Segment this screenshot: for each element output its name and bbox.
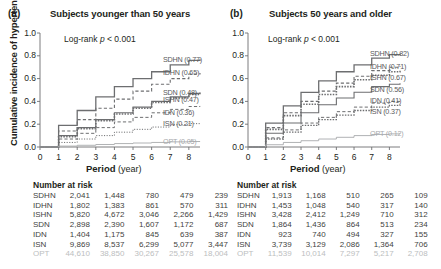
table-row: SDN2,8982,3901,6071,172687 [33,220,228,230]
risk-cell: 1,175 [90,230,125,240]
table-row: ISN9,8698,5376,2995,0773,447 [33,240,228,250]
risk-cell: 1,249 [326,210,360,220]
risk-cell: 845 [124,230,159,240]
y-tick-label: 1.0 [218,28,244,38]
risk-row-label: SDHN [33,191,60,201]
legend-item-sdhn: SDHN (0.82) [370,49,409,58]
table-row: ISHN5,8204,6723,0462,2661,429 [33,210,228,220]
table-row: SDHN1,9131,168510265109 [237,191,428,201]
legend-item-opt: OPT (0.12) [370,129,403,138]
risk-cell: 9,869 [60,240,90,250]
risk-cell: 5,077 [159,240,194,250]
logrank-label: Log-rank [268,34,304,44]
logrank-annotation-a: Log-rank p < 0.001 [64,34,136,44]
risk-cell: 687 [193,220,228,230]
number-at-risk-body: SDHN1,9131,168510265109IDHN1,4531,048540… [237,191,428,259]
x-tick-label: 6 [345,152,363,162]
risk-cell: 327 [360,230,394,240]
x-tick-label: 4 [105,152,123,162]
figure-root: (a) Subjects younger than 50 years Cumul… [0,0,441,269]
number-at-risk-table-b: SDHN1,9131,168510265109IDHN1,4531,048540… [237,191,428,259]
y-tick-label: 0.6 [10,73,36,83]
risk-cell: 1,168 [292,191,326,201]
x-tick-label: 8 [380,152,398,162]
x-tick-label: 1 [257,152,275,162]
risk-cell: 6,299 [124,240,159,250]
x-tick-label: 5 [124,152,142,162]
legend-item-sdhn: SDHN (0.77) [163,55,202,64]
logrank-p-value: < 0.001 [105,34,136,44]
risk-cell: 1,913 [264,191,292,201]
x-axis-title: Period (year) [290,163,346,174]
y-tick-label: 0.0 [218,142,244,152]
risk-cell: 570 [159,201,194,211]
risk-cell: 2,898 [60,220,90,230]
panel-b: (b) Subjects 50 years and older Log-rank… [228,0,441,269]
y-tick-label: 0.6 [218,73,244,83]
legend-item-ishn: ISHN (0.47) [163,95,199,104]
risk-cell: 3,428 [264,210,292,220]
risk-cell: 155 [394,230,428,240]
risk-row-label: SDN [237,220,264,230]
y-tick-label: 0.4 [10,96,36,106]
risk-cell: 2,390 [90,220,125,230]
number-at-risk-title-a: Number at risk [33,180,93,190]
risk-cell: 1,802 [60,201,90,211]
risk-cell: 5,217 [360,249,394,259]
risk-cell: 312 [394,210,428,220]
risk-row-label: ISN [33,240,60,250]
risk-cell: 861 [124,201,159,211]
y-tick-label: 0.0 [10,142,36,152]
risk-cell: 1,453 [264,201,292,211]
risk-cell: 11,539 [264,249,292,259]
x-axis-title: Period (year) [86,163,142,174]
legend-item-sdn: SDN (0.56) [370,85,404,94]
risk-cell: 7,297 [326,249,360,259]
risk-cell: 1,607 [124,220,159,230]
risk-row-label: OPT [237,249,264,259]
panel-a: (a) Subjects younger than 50 years Cumul… [0,0,228,269]
table-row: IDHN1,8021,383861570311 [33,201,228,211]
risk-row-label: IDN [33,230,60,240]
y-tick-label: 0.4 [218,96,244,106]
x-tick-label: 3 [87,152,105,162]
risk-cell: 1,864 [264,220,292,230]
table-row: ISHN3,4282,4121,249710312 [237,210,428,220]
risk-cell: 706 [394,240,428,250]
risk-cell: 2,086 [326,240,360,250]
risk-cell: 2,412 [292,210,326,220]
x-tick-label: 2 [274,152,292,162]
risk-row-label: IDHN [237,201,264,211]
y-tick-label: 0.8 [218,50,244,60]
table-row: IDHN1,4531,048540317140 [237,201,428,211]
risk-cell: 38,850 [90,249,125,259]
number-at-risk-body: SDHN2,0411,448780479239IDHN1,8021,383861… [33,191,228,259]
risk-cell: 2,041 [60,191,90,201]
y-tick-label: 0.8 [10,50,36,60]
table-row: IDN923740494327155 [237,230,428,240]
risk-cell: 1,383 [90,201,125,211]
risk-cell: 540 [326,201,360,211]
risk-cell: 30,267 [124,249,159,259]
y-tick-label: 0.2 [10,119,36,129]
table-row: OPT44,61038,85030,26725,57818,004 [33,249,228,259]
legend-item-idn: IDN (0.36) [163,108,194,117]
x-tick-label: 1 [50,152,68,162]
risk-row-label: ISHN [237,210,264,220]
risk-cell: 5,820 [60,210,90,220]
risk-cell: 510 [326,191,360,201]
x-tick-label: 0 [31,152,49,162]
risk-cell: 3,447 [193,240,228,250]
risk-cell: 25,578 [159,249,194,259]
legend-item-idhn: IDHN (0.71) [370,62,406,71]
x-tick-label: 6 [143,152,161,162]
risk-cell: 494 [326,230,360,240]
y-tick-label: 0.2 [218,119,244,129]
risk-cell: 639 [159,230,194,240]
risk-cell: 140 [394,201,428,211]
risk-cell: 4,672 [90,210,125,220]
risk-cell: 109 [394,191,428,201]
number-at-risk-title-b: Number at risk [237,180,297,190]
risk-cell: 311 [193,201,228,211]
risk-cell: 513 [360,220,394,230]
